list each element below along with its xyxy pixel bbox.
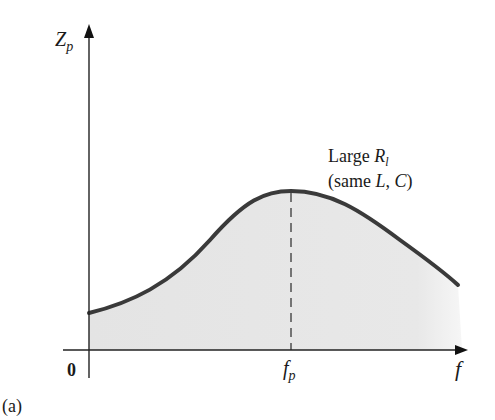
x-axis-label: f [455, 356, 464, 381]
annotation-large-rl: Large Rl [328, 146, 389, 169]
y-axis-arrow-icon [84, 24, 94, 38]
y-axis-label: Zp [55, 28, 73, 54]
peak-frequency-label: fp [283, 357, 296, 383]
panel-label: (a) [2, 396, 22, 417]
origin-label: 0 [67, 360, 76, 380]
annotation-same-lc: (same L, C) [328, 171, 413, 192]
figure-panel: Zp Large Rl (same L, C) 0 fp f (a) [0, 0, 495, 420]
area-under-curve [89, 191, 462, 350]
